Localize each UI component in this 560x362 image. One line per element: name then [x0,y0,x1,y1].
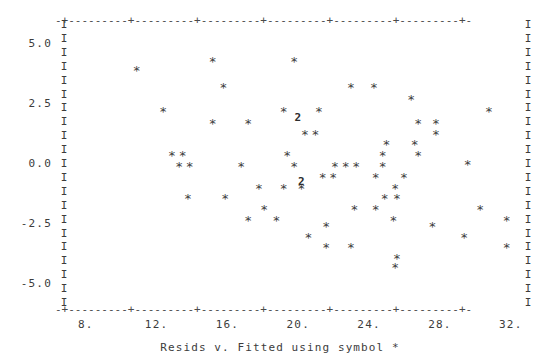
data-point: * [255,182,263,193]
y-tick-label: 2.5 [6,98,52,109]
data-point: * [411,139,419,150]
data-point: * [237,161,245,172]
axis-border-glyph: I [522,130,534,141]
data-point: * [432,128,440,139]
axis-border-glyph: I [58,269,70,280]
plot-page: 5.02.50.0-2.5-5.0 -+---------+---------+… [0,0,560,362]
y-tick-label: 5.0 [6,38,52,49]
axis-border-glyph: I [58,172,70,183]
data-point: * [260,204,268,215]
axis-border-glyph: I [58,228,70,239]
data-point: * [219,81,227,92]
data-point: * [159,105,167,116]
axis-border-glyph: I [522,61,534,72]
data-point: * [221,193,229,204]
axis-border-glyph: I [522,200,534,211]
plot-caption: Resids v. Fitted using symbol * [0,342,560,354]
axis-border-glyph: I [58,186,70,197]
data-point: * [290,55,298,66]
axis-border-glyph: I [58,116,70,127]
data-point: * [304,231,312,242]
x-tick-label: 8. [78,319,94,330]
data-point: * [381,193,389,204]
y-axis-labels: 5.02.50.0-2.5-5.0 [0,0,52,362]
data-point: * [331,161,339,172]
data-point: * [503,214,511,225]
data-point: * [372,171,380,182]
data-point: * [273,214,281,225]
data-point: * [312,128,320,139]
data-point: * [476,204,484,215]
axis-border-glyph: I [58,130,70,141]
data-point: * [168,150,176,161]
data-point: * [297,182,305,193]
data-point: * [432,117,440,128]
x-tick-label: 12. [145,319,168,330]
axis-border-glyph: I [58,255,70,266]
data-point: * [133,65,141,76]
axis-border-glyph: I [58,19,70,30]
data-point: * [283,150,291,161]
axis-border-glyph: I [522,75,534,86]
data-point: * [414,150,422,161]
data-point: * [244,117,252,128]
x-tick-label: 28. [428,319,451,330]
data-point: * [342,161,350,172]
data-point: * [352,161,360,172]
y-tick-label: -5.0 [6,278,52,289]
axis-border-glyph: I [522,186,534,197]
axis-border-glyph: I [522,214,534,225]
data-point: * [414,117,422,128]
axis-border-glyph: I [58,283,70,294]
axis-border-glyph: I [522,158,534,169]
axis-border-glyph: I [58,89,70,100]
data-point: * [319,171,327,182]
data-point: * [379,150,387,161]
axis-border-glyph: I [58,144,70,155]
data-point: * [393,253,401,264]
data-point: * [244,214,252,225]
axis-border-glyph: I [522,269,534,280]
data-point: * [175,161,183,172]
data-point: * [322,242,330,253]
data-point: * [347,81,355,92]
data-point: * [351,204,359,215]
axis-border-glyph: I [522,297,534,308]
axis-border-glyph: I [58,61,70,72]
data-point: * [372,204,380,215]
data-point: * [460,231,468,242]
data-point: * [329,171,337,182]
data-point: * [379,161,387,172]
data-point: * [382,139,390,150]
data-point: * [391,261,399,272]
data-point: * [209,55,217,66]
data-point: * [393,193,401,204]
axis-border-glyph: I [522,172,534,183]
axis-border-glyph: I [58,33,70,44]
data-point: * [280,105,288,116]
data-point: * [428,220,436,231]
data-point: * [209,117,217,128]
axis-border-glyph: I [522,116,534,127]
y-tick-label: -2.5 [6,218,52,229]
axis-border-glyph: I [522,19,534,30]
bottom-axis-rule: -+---------+---------+---------+--------… [55,304,472,315]
data-point: * [280,182,288,193]
data-point: * [389,214,397,225]
data-point: * [407,93,415,104]
data-point: * [347,242,355,253]
axis-border-glyph: I [522,241,534,252]
axis-border-glyph: I [522,228,534,239]
data-point: * [322,220,330,231]
x-axis-labels: 8.12.16.20.24.28.32. [0,0,560,20]
data-point: * [464,158,472,169]
data-point: * [179,150,187,161]
axis-border-glyph: I [522,102,534,113]
data-point-overplot: 2 [294,112,301,123]
data-point: * [400,171,408,182]
data-point: * [485,105,493,116]
axis-border-glyph: I [58,158,70,169]
data-point: * [391,182,399,193]
axis-border-glyph: I [522,33,534,44]
axis-border-glyph: I [522,47,534,58]
